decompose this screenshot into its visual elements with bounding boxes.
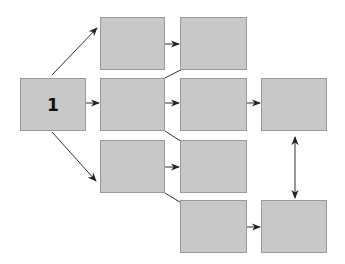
node-4a bbox=[261, 78, 327, 131]
node-4b bbox=[261, 200, 327, 253]
edge-n1-n2c bbox=[52, 132, 96, 181]
edge-n1-n2a bbox=[52, 28, 97, 75]
node-1-label: 1 bbox=[47, 95, 59, 115]
node-3c bbox=[180, 140, 247, 193]
node-2a bbox=[100, 17, 165, 70]
node-2b bbox=[100, 78, 165, 131]
node-2c bbox=[100, 140, 165, 193]
node-3d bbox=[180, 200, 247, 253]
node-1: 1 bbox=[20, 78, 86, 131]
node-3b bbox=[180, 78, 247, 131]
node-3a bbox=[180, 17, 247, 70]
